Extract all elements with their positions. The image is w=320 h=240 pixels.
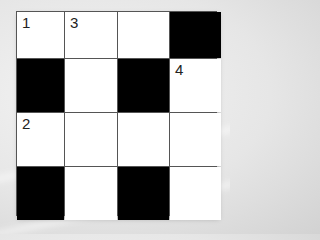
cell-r0-c0[interactable]: 1 [17, 12, 64, 58]
clue-number: 3 [70, 15, 78, 30]
cell-r0-c1[interactable]: 3 [65, 12, 117, 58]
cell-r1-c1[interactable] [65, 59, 117, 112]
clue-number: 1 [22, 15, 30, 30]
cell-r3-c1[interactable] [65, 167, 117, 220]
cell-r3-c3[interactable] [170, 167, 221, 220]
black-cell-r3-c0 [17, 167, 64, 220]
black-cell-r3-c2 [118, 167, 169, 220]
black-cell-r1-c2 [118, 59, 169, 112]
cell-r1-c3[interactable]: 4 [170, 59, 221, 112]
cell-r0-c2[interactable] [118, 12, 169, 58]
black-cell-r0-c3 [170, 12, 221, 58]
clue-number: 2 [22, 116, 30, 131]
cell-r2-c1[interactable] [65, 113, 117, 166]
clue-number: 4 [175, 62, 183, 77]
cell-r2-c3[interactable] [170, 113, 221, 166]
cell-r2-c2[interactable] [118, 113, 169, 166]
black-cell-r1-c0 [17, 59, 64, 112]
cell-r2-c0[interactable]: 2 [17, 113, 64, 166]
crossword-grid: 1 3 4 2 [16, 11, 217, 216]
